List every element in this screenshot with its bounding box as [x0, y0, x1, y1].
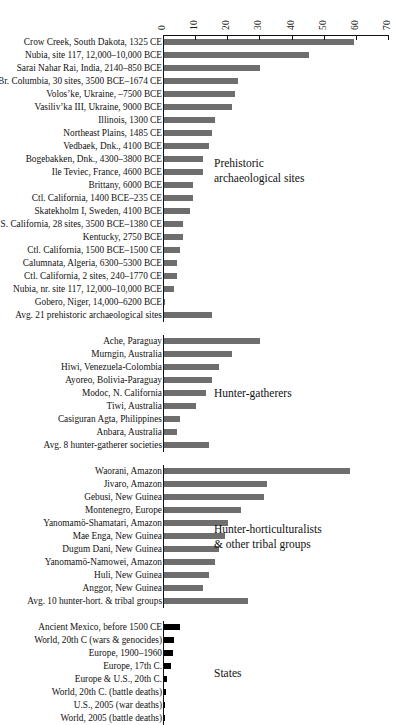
x-axis-tick: [292, 35, 293, 40]
bar: [164, 104, 232, 110]
bar: [164, 260, 177, 266]
group-annotation: Prehistoric archaeological sites: [214, 156, 304, 186]
chart-row: Jivaro, Amazon: [0, 478, 398, 491]
chart-row: Skatekholm I, Sweden, 4100 BCE: [0, 205, 398, 218]
bar-category-label: Crow Creek, South Dakota, 1325 CE: [24, 36, 162, 49]
chart-row: Illinois, 1300 CE: [0, 114, 398, 127]
bar: [164, 585, 203, 591]
bar: [164, 338, 260, 344]
bar-category-label: Ayoreo, Bolivia-Paraguay: [65, 374, 162, 387]
bar: [164, 624, 180, 630]
x-axis-tick: [356, 35, 357, 40]
x-axis-tick: [227, 35, 228, 40]
group-baseline: [163, 335, 164, 452]
chart-row: Avg. 21 prehistoric archaeological sites: [0, 309, 398, 322]
bar: [164, 546, 219, 552]
bar-category-label: Mae Enga, New Guinea: [73, 530, 162, 543]
bar: [164, 494, 264, 500]
bar: [164, 559, 215, 565]
chart-row: Calumnata, Algeria, 6300–5300 BCE: [0, 257, 398, 270]
chart-row: Avg. 8 hunter-gatherer societies: [0, 439, 398, 452]
bar-category-label: Northeast Plains, 1485 CE: [63, 127, 162, 140]
bar-category-label: World, 20th C. (battle deaths): [52, 686, 162, 699]
group-annotation: Hunter-horticulturalists & other tribal …: [214, 522, 322, 552]
chart-row: Ayoreo, Bolivia-Paraguay: [0, 374, 398, 387]
bar-category-label: Vasiliv’ka III, Ukraine, 9000 BCE: [34, 101, 162, 114]
bar: [164, 351, 232, 357]
chart-row: Ctl. California, 2 sites, 240–1770 CE: [0, 270, 398, 283]
bar: [164, 117, 215, 123]
bar: [164, 507, 241, 513]
group-annotation: States: [214, 666, 241, 681]
bar: [164, 676, 167, 682]
chart-row: World, 2005 (battle deaths): [0, 712, 398, 725]
bar: [164, 221, 183, 227]
x-axis-tick-label: 30: [253, 20, 263, 30]
chart-row: Europe, 17th C.: [0, 660, 398, 673]
chart-row: Bogebakken, Dnk., 4300–3800 BCE: [0, 153, 398, 166]
chart-row: Ctl. California, 1500 BCE–1500 CE: [0, 244, 398, 257]
bar: [164, 481, 267, 487]
bar-category-label: Bogebakken, Dnk., 4300–3800 BCE: [26, 153, 162, 166]
chart-row: Montenegro, Europe: [0, 504, 398, 517]
bar: [164, 91, 235, 97]
chart-row: Mae Enga, New Guinea: [0, 530, 398, 543]
bar-category-label: Nubia, site 117, 12,000–10,000 BCE: [25, 49, 162, 62]
bar-category-label: Montenegro, Europe: [85, 504, 162, 517]
chart-row: Sarai Nahar Rai, India, 2140–850 BCE: [0, 62, 398, 75]
bar: [164, 247, 180, 253]
chart-row: World, 20th C (wars & genocides): [0, 634, 398, 647]
bar-category-label: Anggor, New Guinea: [83, 582, 162, 595]
chart-row: U.S., 2005 (war deaths): [0, 699, 398, 712]
group-baseline: [163, 36, 164, 322]
group-spacer: [0, 452, 398, 465]
bar: [164, 195, 193, 201]
bar-category-label: Yanomamö-Namowei, Amazon: [45, 556, 162, 569]
bar: [164, 598, 248, 604]
bar-category-label: Avg. 10 hunter-hort. & tribal groups: [27, 595, 162, 608]
bar-category-label: Murngin, Australia: [91, 348, 162, 361]
chart-row: Ile Teviec, France, 4600 BCE: [0, 166, 398, 179]
bar-category-label: Ctl. California, 1400 BCE–235 CE: [32, 192, 162, 205]
chart-row: Europe & U.S., 20th C.: [0, 673, 398, 686]
chart-row: Ctl. California, 1400 BCE–235 CE: [0, 192, 398, 205]
bar-category-label: Ctl. California, 1500 BCE–1500 CE: [27, 244, 162, 257]
x-axis-tick: [259, 35, 260, 40]
bar-category-label: Europe, 1900–1960: [89, 647, 162, 660]
bar: [164, 390, 206, 396]
chart-row: Br. Columbia, 30 sites, 3500 BCE–1674 CE: [0, 75, 398, 88]
bar-category-label: Skatekholm I, Sweden, 4100 BCE: [34, 205, 162, 218]
bar-category-label: Casiguran Agta, Philippines: [58, 413, 162, 426]
chart-row: Anbara, Australia: [0, 426, 398, 439]
chart-row: Yanomamö-Shamatari, Amazon: [0, 517, 398, 530]
group-spacer: [0, 608, 398, 621]
bar: [164, 416, 180, 422]
bar: [164, 65, 260, 71]
bar-category-label: Modoc, N. California: [82, 387, 162, 400]
bar-category-label: U.S., 2005 (war deaths): [74, 699, 162, 712]
x-axis-tick-label: 60: [350, 20, 360, 30]
bar: [164, 429, 177, 435]
group-annotation: Hunter-gatherers: [214, 386, 292, 401]
bar-category-label: Ancient Mexico, before 1500 CE: [38, 621, 162, 634]
chart-row: Vedbaek, Dnk., 4100 BCE: [0, 140, 398, 153]
bar: [164, 572, 209, 578]
bar: [164, 377, 212, 383]
chart-row: S. California, 28 sites, 3500 BCE–1380 C…: [0, 218, 398, 231]
group-baseline: [163, 621, 164, 725]
x-axis-tick-label: 50: [318, 20, 328, 30]
bar: [164, 234, 183, 240]
chart-row: Nubia, nr. site 117, 12,000–10,000 BCE: [0, 283, 398, 296]
chart-row: Anggor, New Guinea: [0, 582, 398, 595]
x-axis-tick-label: 0: [157, 25, 167, 30]
bar-category-label: Kentucky, 2750 BCE: [83, 231, 162, 244]
x-axis-tick-label: 10: [189, 20, 199, 30]
bar: [164, 182, 193, 188]
bar-category-label: Ile Teviec, France, 4600 BCE: [52, 166, 162, 179]
bar-category-label: Brittany, 6000 BCE: [88, 179, 162, 192]
bar-category-label: Europe, 17th C.: [103, 660, 162, 673]
bar-category-label: Illinois, 1300 CE: [98, 114, 162, 127]
bar-category-label: Yanomamö-Shamatari, Amazon: [43, 517, 162, 530]
chart-row: Ancient Mexico, before 1500 CE: [0, 621, 398, 634]
